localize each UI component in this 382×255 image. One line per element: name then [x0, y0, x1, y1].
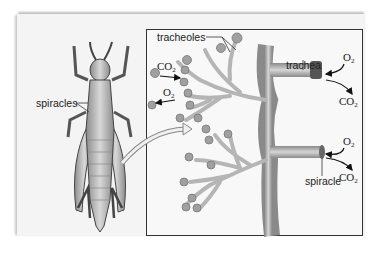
grasshopper-illustration: [68, 42, 131, 232]
gas-co2-top-right: CO2: [339, 95, 358, 109]
label-spiracles: spiracles: [36, 97, 77, 109]
gas-co2-in-left: CO2: [157, 60, 176, 74]
gas-o2-top-right: O2: [343, 51, 354, 65]
label-tracheoles: tracheoles: [157, 31, 205, 43]
label-trachea: trachea: [286, 59, 321, 71]
gas-co2-bottom-right: CO2: [339, 171, 358, 185]
gas-o2-bottom-right: O2: [343, 135, 354, 149]
gas-o2-out-left: O2: [163, 86, 174, 100]
label-spiracle: spiracle: [305, 175, 341, 187]
